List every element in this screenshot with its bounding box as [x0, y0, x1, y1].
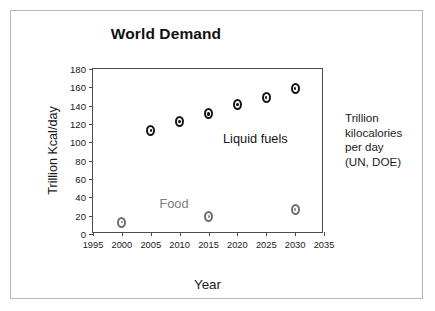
y-axis-tick-label: 120 — [70, 119, 86, 130]
x-axis-tick-label: 2025 — [256, 240, 277, 250]
x-axis-tick — [237, 232, 238, 236]
x-axis-tick-label: 2020 — [227, 240, 248, 250]
data-point-food — [117, 217, 126, 228]
plot-area: FoodLiquid fuels 02040608010012014016018… — [92, 68, 323, 233]
x-axis-tick-label: 2035 — [314, 240, 335, 250]
y-axis-tick — [89, 87, 93, 88]
x-axis-tick-label: 2015 — [198, 240, 219, 250]
data-point-liquid-fuels — [175, 116, 184, 127]
x-axis-tick — [122, 232, 123, 236]
data-point-liquid-fuels — [291, 83, 300, 94]
x-axis-tick-label: 2000 — [112, 240, 133, 250]
y-axis-tick-label: 40 — [75, 192, 86, 203]
x-axis-tick — [180, 232, 181, 236]
side-note-line: kilocalories — [345, 126, 435, 141]
x-axis-tick — [266, 232, 267, 236]
x-axis-tick — [151, 232, 152, 236]
y-axis-tick — [89, 142, 93, 143]
x-axis-tick-label: 2005 — [140, 240, 161, 250]
y-axis-tick-label: 160 — [70, 82, 86, 93]
x-axis-tick-label: 2030 — [285, 240, 306, 250]
x-axis-tick-label: 2010 — [169, 240, 190, 250]
data-point-liquid-fuels — [146, 125, 155, 136]
y-axis-title: Trillion Kcal/day — [45, 68, 62, 233]
x-axis-title: Year — [92, 277, 323, 292]
x-axis-tick — [209, 232, 210, 236]
y-axis-tick — [89, 197, 93, 198]
data-point-liquid-fuels — [204, 108, 213, 119]
side-note-line: (UN, DOE) — [345, 155, 435, 170]
y-axis-tick-label: 20 — [75, 210, 86, 221]
data-point-liquid-fuels — [233, 99, 242, 110]
y-axis-tick — [89, 179, 93, 180]
y-axis-tick-label: 100 — [70, 137, 86, 148]
chart-title: World Demand — [11, 25, 321, 43]
side-note-line: per day — [345, 140, 435, 155]
side-note-line: Trillion — [345, 111, 435, 126]
y-axis-tick — [89, 124, 93, 125]
x-axis-tick — [295, 232, 296, 236]
y-axis-tick — [89, 216, 93, 217]
data-point-liquid-fuels — [262, 92, 271, 103]
y-axis-tick-label: 60 — [75, 174, 86, 185]
plot-inner: FoodLiquid fuels — [93, 69, 322, 232]
y-axis-tick-label: 80 — [75, 155, 86, 166]
series-annotation-liquid-fuels: Liquid fuels — [223, 131, 288, 146]
side-note: Trillionkilocaloriesper day(UN, DOE) — [345, 111, 435, 169]
x-axis-tick — [324, 232, 325, 236]
y-axis-tick-label: 0 — [81, 229, 86, 240]
chart-frame: World Demand Trillion Kcal/day FoodLiqui… — [10, 10, 423, 299]
y-axis-tick-label: 180 — [70, 64, 86, 75]
x-axis-tick — [93, 232, 94, 236]
y-axis-tick — [89, 69, 93, 70]
series-annotation-food: Food — [159, 196, 188, 211]
x-axis-tick-label: 1995 — [83, 240, 104, 250]
y-axis-tick — [89, 161, 93, 162]
data-point-food — [204, 211, 213, 222]
y-axis-tick — [89, 106, 93, 107]
y-axis-tick-label: 140 — [70, 100, 86, 111]
data-point-food — [291, 204, 300, 215]
